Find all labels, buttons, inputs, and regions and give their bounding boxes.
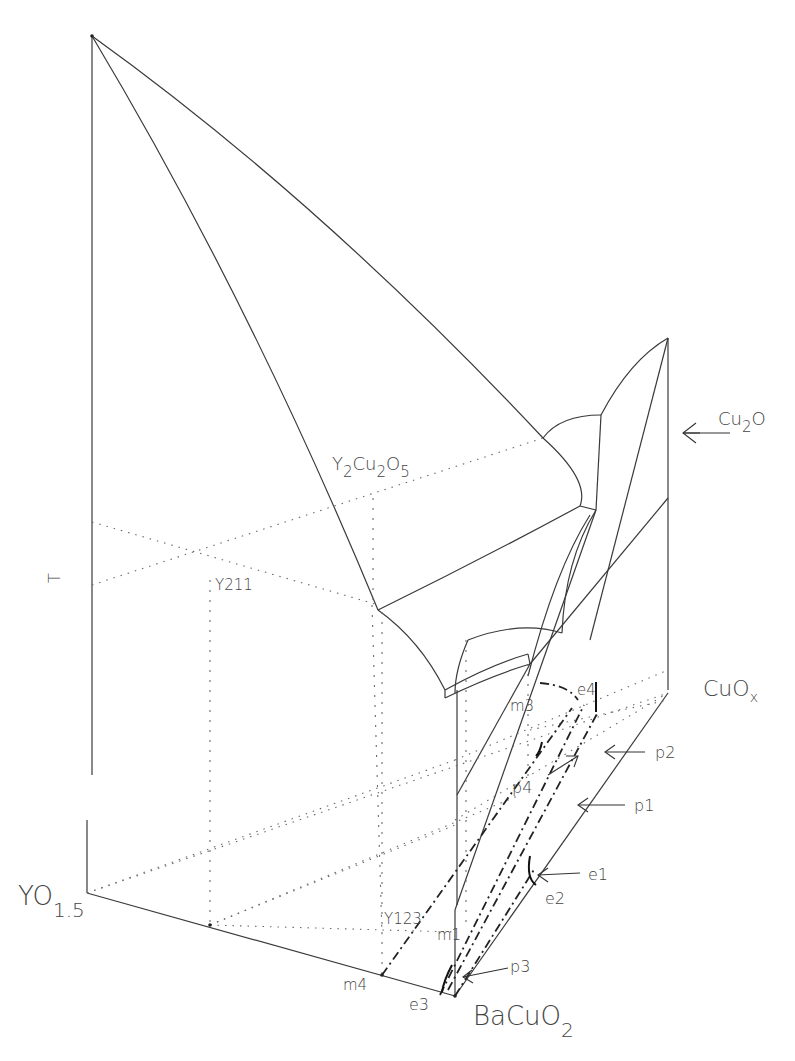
yo15-corner-label: YO1.5: [18, 881, 85, 922]
m4-label: m4: [343, 976, 367, 994]
e4-label: e4: [577, 681, 596, 699]
e1-label: e1: [588, 865, 608, 884]
y123-label: Y123: [384, 910, 422, 928]
labels: T Y2Cu2O5 Y211 Y123 Cu2O YO1.5 BaCuO2 Cu…: [18, 408, 766, 1042]
cu2o-label: Cu2O: [718, 408, 766, 436]
projection-lines: [87, 438, 668, 975]
temperature-axis-label: T: [45, 573, 64, 583]
p2-label: p2: [655, 743, 675, 762]
y211-label: Y211: [215, 576, 253, 594]
y2cu2o5-label: Y2Cu2O5: [332, 453, 410, 481]
bacuo2-corner-label: BaCuO2: [473, 1001, 574, 1042]
m3-label: m3: [510, 697, 534, 715]
cuox-corner-label: CuOx: [703, 676, 758, 705]
p1-label: p1: [634, 796, 654, 815]
p4-label: p4: [512, 778, 532, 797]
p3-label: p3: [510, 957, 530, 976]
e3-label: e3: [409, 995, 429, 1014]
m1-label: m1: [437, 926, 461, 944]
phase-diagram: T Y2Cu2O5 Y211 Y123 Cu2O YO1.5 BaCuO2 Cu…: [0, 0, 795, 1061]
e2-label: e2: [545, 889, 565, 908]
